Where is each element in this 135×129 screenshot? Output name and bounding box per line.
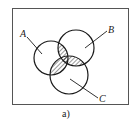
- set-a-label: A: [19, 28, 27, 39]
- venn-diagram-figure: A B C a): [0, 0, 135, 129]
- venn-diagram-svg: A B C a): [0, 0, 135, 129]
- figure-caption: a): [62, 108, 70, 120]
- set-c-label: C: [99, 93, 106, 104]
- set-b-label: B: [108, 24, 114, 35]
